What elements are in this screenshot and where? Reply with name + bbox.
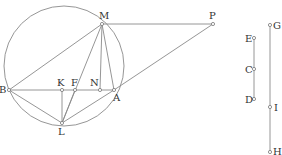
point-N [98,88,101,91]
label-H: H [273,146,282,155]
point-E [252,36,255,39]
label-E: E [245,33,252,44]
segment-FL [62,90,75,123]
point-G [268,23,271,26]
label-A: A [112,92,121,103]
segments [9,24,270,152]
label-K: K [57,77,65,88]
point-C [252,67,255,70]
label-C: C [245,64,253,75]
label-G: G [273,20,281,31]
segment-MA [102,24,114,90]
label-P: P [209,10,216,21]
label-B: B [0,84,6,95]
segment-MN [100,24,102,90]
point-H [268,150,271,153]
label-N: N [90,77,99,88]
points [7,22,271,153]
label-M: M [99,10,109,21]
label-I: I [274,102,278,113]
point-L [60,121,63,124]
point-I [268,105,271,108]
point-M [100,22,103,25]
segment-LA [62,90,114,123]
segment-AP [114,24,213,90]
point-F [73,88,76,91]
label-D: D [245,94,253,105]
point-K [60,88,63,91]
segment-BM [9,24,102,90]
labels: MPBKFNALECDGIH [0,10,282,155]
point-B [7,88,10,91]
geometry-diagram: MPBKFNALECDGIH [0,0,282,155]
label-L: L [58,126,65,137]
label-F: F [71,77,78,88]
point-P [211,22,214,25]
segment-BL [9,90,62,123]
